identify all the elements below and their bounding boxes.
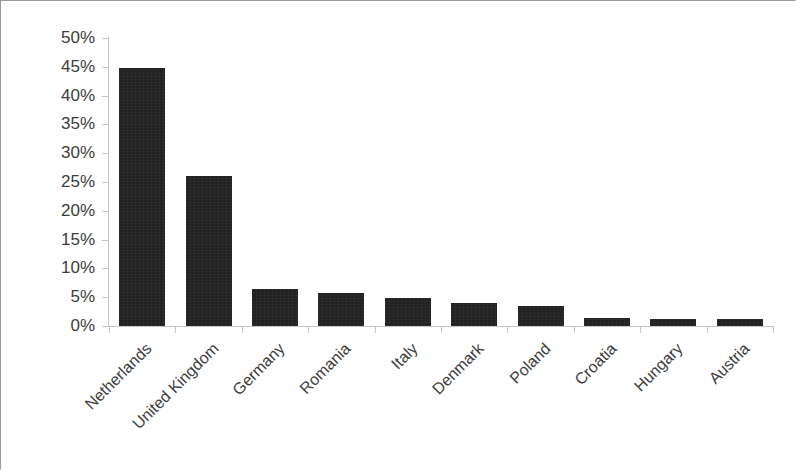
bar[interactable] — [318, 293, 364, 326]
x-axis-tick-mark — [109, 326, 110, 333]
y-axis-tick-label: 50% — [61, 27, 95, 48]
bar-slot — [308, 38, 374, 326]
x-axis-tick-label-text: Italy — [387, 339, 421, 373]
bar-slot — [707, 38, 773, 326]
y-axis-tick-label: 15% — [61, 229, 95, 250]
y-axis-tick-label: 25% — [61, 171, 95, 192]
bar[interactable] — [186, 176, 232, 326]
y-axis-tick-label: 45% — [61, 56, 95, 77]
bar[interactable] — [252, 289, 298, 326]
bar[interactable] — [451, 303, 497, 326]
bar-chart-figure: 0%5%10%15%20%25%30%35%40%45%50% Netherla… — [0, 0, 796, 470]
x-axis-tick-mark — [574, 326, 575, 333]
x-axis-tick-label-text: Austria — [705, 339, 754, 388]
bar[interactable] — [119, 68, 165, 326]
x-axis-tick-mark — [773, 326, 774, 333]
bar[interactable] — [518, 306, 564, 326]
y-axis-tick-label: 0% — [70, 315, 95, 336]
x-axis-tick-label-text: Poland — [505, 339, 554, 388]
x-axis-tick-mark — [242, 326, 243, 333]
bar-slot — [507, 38, 573, 326]
x-axis-tick-mark — [507, 326, 508, 333]
bar-slot — [242, 38, 308, 326]
x-axis-tick-mark — [707, 326, 708, 333]
x-axis-tick-label-text: Romania — [296, 339, 355, 398]
bar[interactable] — [385, 298, 431, 326]
x-axis-tick-mark — [175, 326, 176, 333]
bar-slot — [175, 38, 241, 326]
x-axis-tick-mark — [308, 326, 309, 333]
bar-slot — [574, 38, 640, 326]
x-axis-tick-label-text: Hungary — [631, 339, 687, 395]
bar[interactable] — [717, 319, 763, 326]
y-axis-tick-label: 30% — [61, 142, 95, 163]
y-axis-tick-label: 40% — [61, 85, 95, 106]
y-axis-tick-label: 5% — [70, 286, 95, 307]
x-axis-tick-label-text: Germany — [228, 339, 288, 399]
bar-slot — [109, 38, 175, 326]
x-axis-tick-label-text: Croatia — [571, 339, 621, 389]
plot-area — [109, 38, 773, 326]
y-axis-tick-label: 10% — [61, 257, 95, 278]
bar-slot — [441, 38, 507, 326]
bar[interactable] — [584, 318, 630, 326]
x-axis-tick-mark — [375, 326, 376, 333]
x-axis-tick-label-text: Denmark — [428, 339, 487, 398]
y-axis-tick-label: 35% — [61, 113, 95, 134]
x-axis-tick-mark — [441, 326, 442, 333]
bar[interactable] — [650, 319, 696, 326]
y-axis-tick-label: 20% — [61, 200, 95, 221]
bar-slot — [640, 38, 706, 326]
bar-slot — [375, 38, 441, 326]
x-axis-tick-mark — [640, 326, 641, 333]
